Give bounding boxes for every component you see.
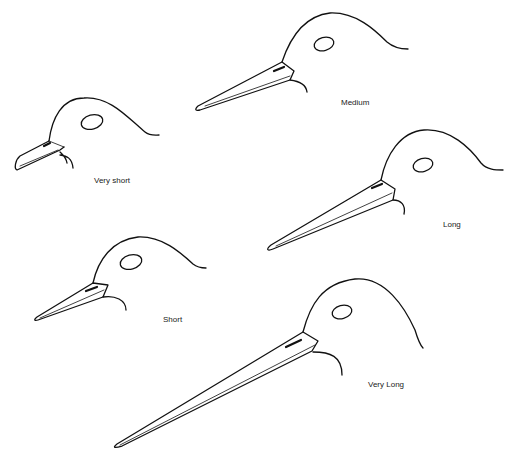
label-long: Long xyxy=(443,220,461,229)
head-very-short xyxy=(15,98,159,170)
label-very-long: Very Long xyxy=(368,380,404,389)
head-very-long xyxy=(115,279,423,448)
label-medium: Medium xyxy=(341,98,369,107)
head-long xyxy=(268,130,503,250)
head-short xyxy=(35,237,206,320)
label-short: Short xyxy=(163,315,182,324)
label-very-short: Very short xyxy=(94,176,130,185)
head-medium xyxy=(196,13,408,110)
bill-length-diagram xyxy=(0,0,511,459)
